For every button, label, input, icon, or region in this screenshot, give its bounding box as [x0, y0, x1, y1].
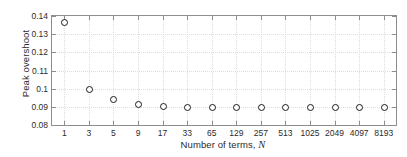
x-tick-mark: [384, 121, 385, 125]
x-tick-mark-top: [335, 16, 336, 20]
data-point-marker: [282, 104, 289, 111]
y-gridline: [52, 107, 396, 108]
x-tick-mark-top: [138, 16, 139, 20]
y-tick-label: 0.14: [31, 11, 48, 21]
x-axis-title: Number of terms, N: [51, 139, 395, 150]
x-tick-label: 8193: [374, 128, 393, 138]
data-point-marker: [160, 103, 167, 110]
x-tick-mark: [236, 121, 237, 125]
x-tick-label: 4097: [350, 128, 369, 138]
y-tick-mark-right: [392, 89, 396, 90]
y-tick-label: 0.09: [31, 102, 48, 112]
x-tick-mark-top: [384, 16, 385, 20]
x-tick-label: 65: [207, 128, 216, 138]
data-point-marker: [135, 101, 142, 108]
y-gridline: [52, 71, 396, 72]
y-tick-mark-right: [392, 71, 396, 72]
data-point-marker: [233, 104, 240, 111]
x-tick-label: 2049: [325, 128, 344, 138]
x-tick-mark: [335, 121, 336, 125]
data-point-marker: [381, 104, 388, 111]
y-tick-mark-right: [392, 16, 396, 17]
x-tick-mark: [261, 121, 262, 125]
y-tick-label: 0.11: [32, 66, 48, 76]
x-tick-label: 3: [86, 128, 91, 138]
y-tick-label: 0.12: [31, 47, 48, 57]
x-tick-mark-top: [212, 16, 213, 20]
y-tick-mark-right: [392, 107, 396, 108]
y-tick-mark: [52, 89, 56, 90]
x-tick-mark: [187, 121, 188, 125]
x-tick-mark: [359, 121, 360, 125]
x-tick-mark-top: [359, 16, 360, 20]
data-point-marker: [332, 104, 339, 111]
y-tick-mark: [52, 125, 56, 126]
y-tick-mark: [52, 71, 56, 72]
data-point-marker: [184, 104, 191, 111]
x-tick-mark: [285, 121, 286, 125]
y-tick-mark-right: [392, 52, 396, 53]
x-tick-mark: [113, 121, 114, 125]
x-gridline: [113, 16, 114, 125]
x-tick-mark-top: [163, 16, 164, 20]
y-tick-label: 0.1: [36, 84, 48, 94]
y-tick-mark: [52, 34, 56, 35]
x-gridline: [64, 16, 65, 125]
x-tick-mark: [64, 121, 65, 125]
x-axis-variable-n: N: [258, 139, 265, 150]
x-axis-title-text: Number of terms,: [181, 139, 259, 150]
x-tick-mark-top: [89, 16, 90, 20]
y-gridline: [52, 34, 396, 35]
x-gridline: [89, 16, 90, 125]
y-tick-mark-right: [392, 34, 396, 35]
y-tick-mark: [52, 52, 56, 53]
x-tick-mark: [163, 121, 164, 125]
y-tick-label: 0.13: [31, 29, 48, 39]
x-tick-label: 17: [158, 128, 167, 138]
x-tick-mark-top: [310, 16, 311, 20]
data-point-marker: [307, 104, 314, 111]
data-point-marker: [209, 104, 216, 111]
x-tick-label: 257: [254, 128, 268, 138]
x-tick-label: 129: [229, 128, 243, 138]
x-tick-mark-top: [261, 16, 262, 20]
data-point-marker: [61, 19, 68, 26]
x-tick-mark-top: [236, 16, 237, 20]
x-gridline: [138, 16, 139, 125]
x-tick-label: 33: [182, 128, 191, 138]
x-tick-label: 5: [111, 128, 116, 138]
x-tick-mark: [212, 121, 213, 125]
x-tick-mark-top: [113, 16, 114, 20]
x-tick-mark-top: [285, 16, 286, 20]
data-point-marker: [258, 104, 265, 111]
y-gridline: [52, 89, 396, 90]
x-tick-label: 513: [278, 128, 292, 138]
y-tick-mark: [52, 16, 56, 17]
x-tick-label: 1: [62, 128, 67, 138]
x-tick-label: 9: [136, 128, 141, 138]
data-point-marker: [86, 86, 93, 93]
x-tick-label: 1025: [301, 128, 320, 138]
x-tick-mark: [310, 121, 311, 125]
data-point-marker: [110, 96, 117, 103]
x-tick-mark-top: [187, 16, 188, 20]
gibbs-overshoot-figure: Peak overshoot Number of terms, N 0.080.…: [0, 0, 407, 157]
y-tick-mark: [52, 107, 56, 108]
data-point-marker: [356, 104, 363, 111]
y-axis-title: Peak overshoot: [20, 0, 31, 129]
y-gridline: [52, 52, 396, 53]
x-tick-mark: [138, 121, 139, 125]
plot-area: 0.080.090.10.110.120.130.141359173365129…: [51, 15, 397, 126]
x-tick-mark: [89, 121, 90, 125]
y-tick-mark-right: [392, 125, 396, 126]
y-tick-label: 0.08: [31, 120, 48, 130]
